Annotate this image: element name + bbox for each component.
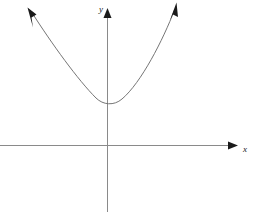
parabola-curve [33,10,175,104]
parabola-right-arrowhead-icon [170,3,178,21]
parabola-figure: x y [0,0,265,212]
y-axis-arrowhead-icon [104,8,112,18]
y-axis-label: y [98,4,103,14]
coordinate-plane-svg: x y [0,0,265,212]
x-axis-arrowhead-icon [228,142,238,150]
x-axis-label: x [242,144,247,154]
